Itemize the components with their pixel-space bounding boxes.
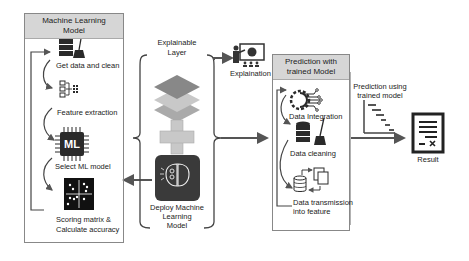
- ml-model-panel: Machine Learning Model: [24, 13, 124, 243]
- prediction-using-line2: trained model: [350, 91, 410, 100]
- deploy-label-line2: Learning: [142, 212, 212, 221]
- explanation-label: Explaination: [230, 69, 271, 78]
- prediction-panel-title-line2: trained Model: [273, 67, 349, 77]
- result-document-icon: [413, 114, 443, 152]
- prediction-panel-title-line1: Prediction with: [273, 57, 349, 67]
- deploy-label-line3: Model: [142, 221, 212, 230]
- step-select-model-label: Select ML model: [55, 162, 111, 171]
- prediction-panel-header: Prediction with trained Model: [273, 55, 349, 80]
- ml-panel-header: Machine Learning Model: [25, 14, 123, 39]
- step-data-transmission-line2: into feature: [293, 207, 331, 216]
- brain-deploy-icon: [155, 155, 200, 201]
- result-label: Result: [410, 155, 446, 164]
- step-get-data-label: Get data and clean: [56, 61, 119, 70]
- brace-to-explanation-arrow: [214, 58, 232, 60]
- step-feature-extraction-label: Feature extraction: [57, 108, 117, 117]
- plus-icon: [160, 120, 194, 154]
- step-scoring-label-line2: Calculate accuracy: [56, 225, 119, 234]
- ml-chip-text: ML: [60, 137, 84, 151]
- step-data-transmission-line1: Data transmission: [293, 198, 353, 207]
- prediction-step-chart-icon: [364, 100, 395, 133]
- explainable-layer-title-line2: Layer: [147, 48, 207, 57]
- prediction-using-line1: Prediction using: [350, 82, 410, 91]
- ml-panel-title-line1: Machine Learning: [25, 16, 123, 26]
- step-data-cleaning-label: Data cleaning: [290, 149, 336, 158]
- step-data-integration-label: Data Integration: [289, 112, 342, 121]
- presenter-icon: [233, 44, 264, 67]
- explainable-layer-title-line1: Explainable: [147, 38, 207, 47]
- step-scoring-label-line1: Scoring matrix &: [56, 215, 111, 224]
- deploy-label-line1: Deploy Machine: [142, 203, 212, 212]
- ml-panel-title-line2: Model: [25, 26, 123, 36]
- layers-icon: [154, 75, 200, 122]
